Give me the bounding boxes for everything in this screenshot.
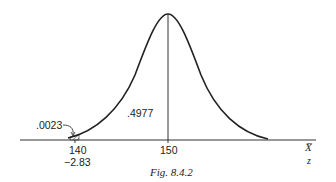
- z-axis-label: z: [307, 156, 311, 166]
- figure-caption: Fig. 8.4.2: [150, 166, 193, 178]
- x-tick-label-140: 140: [69, 145, 87, 156]
- x-tick-label-150: 150: [160, 145, 178, 156]
- center-area-label: .4977: [127, 108, 153, 119]
- tail-area-label: .0023: [36, 120, 62, 131]
- x-bar-axis-label: X̅: [305, 142, 312, 153]
- z-tick-label: −2.83: [64, 157, 91, 168]
